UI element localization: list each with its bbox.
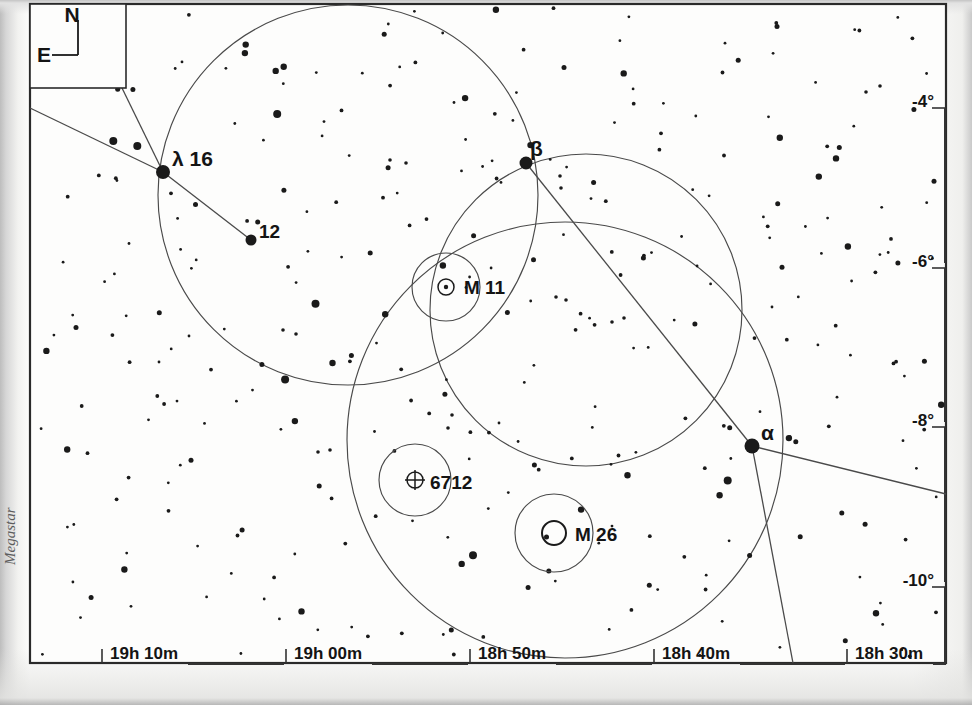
star bbox=[127, 476, 131, 480]
star bbox=[662, 102, 665, 105]
star bbox=[340, 256, 343, 259]
star bbox=[121, 566, 127, 572]
star bbox=[62, 261, 65, 264]
star bbox=[179, 464, 182, 467]
star bbox=[386, 165, 391, 170]
star bbox=[469, 551, 477, 559]
star bbox=[111, 333, 115, 337]
star bbox=[158, 361, 161, 364]
chart-border bbox=[30, 4, 946, 663]
star bbox=[544, 535, 549, 540]
star bbox=[532, 463, 537, 468]
star bbox=[837, 145, 842, 150]
star bbox=[446, 536, 449, 539]
star bbox=[449, 628, 454, 633]
x-tick-label-2: 18h 50m bbox=[478, 644, 546, 663]
star-α bbox=[745, 439, 760, 454]
star bbox=[452, 653, 456, 657]
star bbox=[373, 430, 376, 433]
star bbox=[453, 101, 456, 104]
star bbox=[816, 173, 822, 179]
star bbox=[388, 84, 392, 88]
star bbox=[312, 300, 320, 308]
star bbox=[529, 300, 532, 303]
star bbox=[610, 463, 613, 466]
star bbox=[562, 233, 565, 236]
star bbox=[381, 196, 385, 200]
star bbox=[343, 542, 347, 546]
star bbox=[579, 312, 583, 316]
star bbox=[852, 125, 855, 128]
star bbox=[517, 440, 520, 443]
star bbox=[777, 135, 783, 141]
star bbox=[233, 122, 236, 125]
star bbox=[147, 418, 150, 421]
star bbox=[591, 426, 594, 429]
star bbox=[880, 206, 883, 209]
star bbox=[64, 446, 70, 452]
star bbox=[281, 328, 285, 332]
star bbox=[617, 454, 621, 458]
star bbox=[873, 610, 879, 616]
star bbox=[558, 174, 562, 178]
star bbox=[242, 50, 248, 56]
star bbox=[307, 250, 310, 253]
star bbox=[564, 298, 568, 302]
label-alpha: α bbox=[761, 421, 774, 444]
star-12 bbox=[246, 235, 257, 246]
star bbox=[409, 399, 413, 403]
star bbox=[622, 316, 626, 320]
star bbox=[635, 451, 638, 454]
star bbox=[109, 137, 117, 145]
star bbox=[245, 219, 249, 223]
star bbox=[317, 484, 322, 489]
star bbox=[747, 553, 752, 558]
star bbox=[66, 526, 69, 529]
star bbox=[932, 179, 937, 184]
star bbox=[462, 95, 468, 101]
star bbox=[648, 534, 652, 538]
star bbox=[574, 328, 578, 332]
star bbox=[282, 82, 285, 85]
star bbox=[115, 497, 119, 501]
star bbox=[286, 265, 290, 269]
star bbox=[559, 186, 563, 190]
star bbox=[80, 404, 84, 408]
star bbox=[155, 394, 159, 398]
star bbox=[169, 191, 173, 195]
star bbox=[382, 311, 388, 317]
star bbox=[656, 588, 659, 591]
star bbox=[895, 261, 900, 266]
star bbox=[833, 155, 839, 161]
star bbox=[316, 628, 319, 631]
star bbox=[460, 170, 463, 173]
star bbox=[786, 435, 792, 441]
star bbox=[775, 24, 780, 29]
star bbox=[934, 610, 938, 614]
star bbox=[554, 295, 558, 299]
star bbox=[804, 225, 807, 228]
y-tick-label-0: -4° bbox=[912, 92, 934, 111]
star bbox=[902, 439, 905, 442]
star bbox=[537, 468, 541, 472]
star bbox=[632, 88, 635, 91]
star bbox=[619, 273, 623, 277]
star bbox=[925, 201, 928, 204]
star bbox=[552, 6, 556, 10]
star bbox=[427, 412, 431, 416]
star bbox=[881, 623, 884, 626]
star bbox=[323, 120, 326, 123]
star bbox=[771, 306, 774, 309]
star bbox=[522, 48, 526, 52]
star bbox=[817, 344, 820, 347]
star bbox=[619, 39, 622, 42]
star bbox=[728, 539, 731, 542]
star bbox=[593, 323, 597, 327]
star bbox=[904, 538, 908, 542]
star bbox=[632, 347, 635, 350]
star-chart-canvas: λ 1612βαM 116712M 26 19h 10m19h 00m18h 5… bbox=[0, 0, 972, 705]
star bbox=[189, 458, 194, 463]
star bbox=[321, 135, 324, 138]
star bbox=[388, 158, 392, 162]
star bbox=[399, 367, 403, 371]
